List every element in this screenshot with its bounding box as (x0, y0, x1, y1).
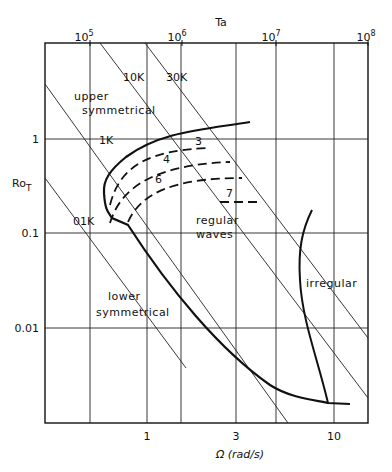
region-upper-label-2: symmetrical (82, 104, 156, 117)
curve-label-3: 3 (195, 135, 202, 148)
regime-diagram: Ta 105 106 107 108 1 0.1 0.01 RoT 1 3 10… (0, 0, 392, 472)
diag-label-1K: 1K (99, 134, 114, 147)
x-tick-10: 10 (327, 430, 341, 443)
x-axis-label: Ω (rad/s) (215, 448, 264, 461)
svg-text:105: 105 (74, 29, 93, 44)
y-tick-1: 1 (32, 133, 39, 146)
curve-label-6: 6 (155, 173, 162, 186)
svg-text:107: 107 (261, 29, 280, 44)
region-lower-label-1: lower (108, 290, 141, 303)
region-irregular-label: irregular (306, 277, 357, 290)
diag-label-0.1K: 01K (73, 215, 95, 228)
top-tick-labels: 105 106 107 108 (74, 29, 375, 44)
region-upper-label-1: upper (74, 90, 109, 103)
curve-label-7: 7 (226, 187, 233, 200)
symmetrical-boundary-curve (104, 122, 350, 404)
region-lower-label-2: symmetrical (96, 306, 170, 319)
y-axis-label: RoT (12, 177, 32, 193)
irregular-boundary-curve (300, 210, 329, 403)
diag-label-10K: 10K (123, 71, 145, 84)
region-regular-label-1: regular (196, 214, 239, 227)
x-tick-1: 1 (144, 430, 151, 443)
diag-label-30K: 30K (166, 71, 188, 84)
y-tick-0.01: 0.01 (15, 322, 40, 335)
svg-text:106: 106 (167, 29, 186, 44)
top-axis-label: Ta (214, 16, 227, 29)
wavenumber-curves (110, 148, 262, 223)
x-tick-3: 3 (233, 430, 240, 443)
y-tick-0.1: 0.1 (22, 227, 40, 240)
svg-text:108: 108 (356, 29, 375, 44)
curve-label-4: 4 (163, 153, 170, 166)
region-regular-label-2: waves (196, 228, 233, 241)
